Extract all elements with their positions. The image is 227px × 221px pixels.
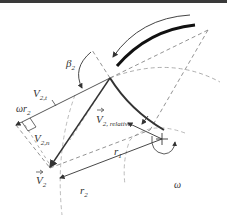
label-r2: r2: [80, 184, 88, 199]
rotation-arrow-thin: [113, 15, 190, 57]
label-v2n: V2,n: [34, 132, 50, 147]
label-v2t: V2,t: [33, 87, 48, 102]
label-omega-r2: ωr2: [16, 103, 31, 117]
svg-text:V2: V2: [36, 174, 47, 189]
inner-circle-r1: [124, 128, 185, 185]
blade-thick-top: [117, 25, 195, 66]
rotation-center-cross: [156, 133, 168, 145]
label-r1: r1: [114, 145, 122, 160]
label-omega: ω: [174, 179, 181, 190]
label-v2-relative: V2, relative: [96, 108, 131, 128]
right-angle-marker: [22, 118, 36, 131]
beta2-angle-arc: [79, 52, 91, 88]
label-v2: V2: [36, 170, 47, 189]
label-beta2: β2: [65, 57, 75, 72]
v2t-leader: [52, 100, 56, 106]
svg-text:V2, relative: V2, relative: [96, 113, 131, 128]
velocity-triangle-diagram: β2 V2,t ωr2 V2,n V2, relative V2 r1 r2 ω: [0, 0, 227, 221]
